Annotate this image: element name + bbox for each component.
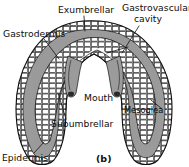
bell-body [0, 0, 189, 167]
label-mouth: Mouth [84, 92, 113, 103]
label-exumbrellar: Exumbrellar [58, 4, 114, 15]
figure-caption: (b) [96, 153, 111, 164]
medusa-cross-section-diagram: Exumbrellar Gastrovascular cavity Gastro… [0, 0, 189, 167]
label-gastrovascular-cavity-line1: Gastrovascular [122, 2, 189, 13]
label-gastrovascular-cavity-line2: cavity [134, 13, 163, 24]
label-epidermis: Epidermis [2, 152, 48, 163]
figure-container: Exumbrellar Gastrovascular cavity Gastro… [0, 0, 189, 167]
label-subumbrellar: Subumbrellar [51, 118, 114, 129]
label-mesoglea: Mesoglea [124, 105, 163, 115]
manubrium-lobe-left [65, 56, 82, 97]
label-gastrodermis: Gastrodermis [3, 28, 65, 39]
mouth-opening-left [68, 92, 74, 97]
manubrium-lobe-right [106, 56, 123, 97]
manubrium-mouth-group [65, 56, 124, 97]
mouth-opening-right [114, 92, 120, 97]
